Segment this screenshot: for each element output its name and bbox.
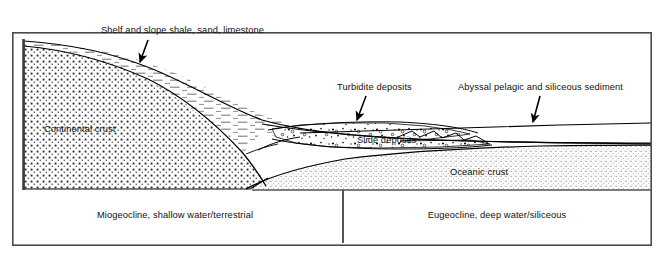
label-slide-deposits: Slide deposits (357, 136, 416, 145)
label-miogeocline: Miogeocline, shallow water/terrestrial (97, 211, 253, 220)
geologic-cross-section-figure: Shelf and slope shale, sand, limestone T… (0, 0, 668, 259)
label-eugeocline: Eugeocline, deep water/siliceous (428, 211, 567, 220)
label-shelf-slope: Shelf and slope shale, sand, limestone (101, 26, 264, 35)
label-turbidite-deposits: Turbidite deposits (337, 83, 412, 92)
label-oceanic-crust: Oceanic crust (450, 168, 508, 177)
label-continental-crust: Continental crust (44, 125, 115, 134)
label-abyssal-sediment: Abyssal pelagic and siliceous sediment (458, 83, 623, 92)
